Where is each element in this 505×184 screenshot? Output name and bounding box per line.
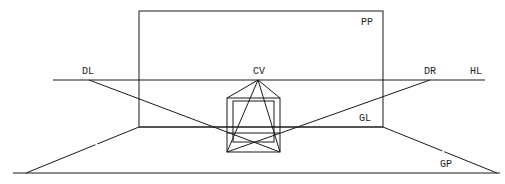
label-dr: DR (424, 67, 436, 77)
label-pp: PP (361, 18, 373, 28)
label-dl: DL (82, 67, 94, 77)
orthogonal-top-left (227, 80, 258, 98)
orthogonal-top-right (258, 80, 280, 98)
diagonal-from-dr (227, 80, 430, 152)
ground-plane-left-edge (26, 127, 139, 173)
cube-back-face (233, 101, 274, 142)
perspective-diagram (0, 0, 505, 184)
label-gp: GP (440, 160, 452, 170)
label-gl: GL (359, 114, 371, 124)
label-hl: HL (470, 67, 482, 77)
orthogonal-bottom-left (227, 80, 258, 152)
label-cv: CV (253, 67, 265, 77)
orthogonal-bottom-right (258, 80, 280, 152)
diagonal-from-dl (89, 80, 280, 152)
